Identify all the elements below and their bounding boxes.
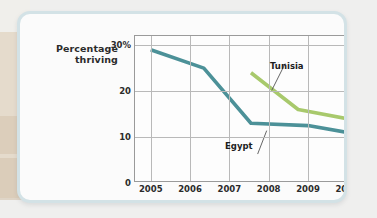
y-tick-label: 0 <box>125 178 131 188</box>
plot-area: 2005200620072008200920100102030% <box>134 35 344 182</box>
x-tick-label: 2010 <box>335 184 344 194</box>
y-tick-label: 10 <box>119 132 131 142</box>
gridline-vertical <box>269 36 270 181</box>
y-axis-title: Percentage thriving <box>46 43 118 65</box>
annotation-leader-layer <box>135 36 344 183</box>
x-tick-label: 2006 <box>178 184 202 194</box>
gridline-vertical <box>190 36 191 181</box>
gridline-vertical <box>229 36 230 181</box>
gridline-horizontal <box>135 91 344 92</box>
figure-card-inner: Percentage thriving 20052006200720082009… <box>20 14 344 200</box>
y-tick-label: 20 <box>119 86 131 96</box>
x-tick-label: 2009 <box>296 184 320 194</box>
x-tick-label: 2008 <box>257 184 281 194</box>
y-axis-title-text: Percentage thriving <box>56 43 118 65</box>
x-tick-label: 2005 <box>139 184 163 194</box>
y-tick-label: 30% <box>111 40 131 50</box>
series-label-egypt-text: Egypt <box>225 141 253 151</box>
series-label-tunisia-text: Tunisia <box>270 61 304 71</box>
leader-egypt <box>258 131 267 154</box>
gridline-vertical <box>308 36 309 181</box>
gridline-horizontal <box>135 45 344 46</box>
gridline-horizontal <box>135 137 344 138</box>
series-label-tunisia: Tunisia <box>270 61 304 71</box>
gridline-vertical <box>151 36 152 181</box>
series-label-egypt: Egypt <box>225 141 253 151</box>
figure-card: Percentage thriving 20052006200720082009… <box>17 11 347 203</box>
x-tick-label: 2007 <box>217 184 241 194</box>
